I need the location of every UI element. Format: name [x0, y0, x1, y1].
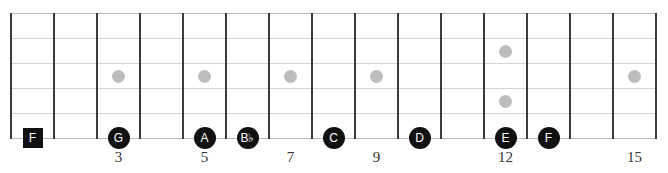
fretboard-diagram: FGAB♭CDEF35791215 — [0, 0, 668, 173]
string-line — [11, 13, 656, 14]
fret-line — [526, 13, 528, 139]
inlay-dot — [499, 45, 512, 58]
fret-line — [10, 13, 12, 139]
inlay-dot — [284, 70, 297, 83]
fret-line — [655, 13, 657, 139]
fret-line — [225, 13, 227, 139]
fret-line — [440, 13, 442, 139]
fret-line — [96, 13, 98, 139]
inlay-dot — [499, 95, 512, 108]
string-line — [11, 63, 656, 64]
fret-line — [354, 13, 356, 139]
fret-number: 9 — [362, 149, 392, 166]
fret-number: 5 — [190, 149, 220, 166]
fret-line — [53, 13, 55, 139]
fret-line — [483, 13, 485, 139]
fret-number: 12 — [491, 149, 521, 166]
fret-line — [569, 13, 571, 139]
fret-number: 3 — [104, 149, 134, 166]
note-marker: B♭ — [237, 127, 259, 149]
string-line — [11, 113, 656, 114]
string-line — [11, 88, 656, 89]
note-marker: E — [495, 127, 517, 149]
string-line — [11, 38, 656, 39]
note-marker: A — [194, 127, 216, 149]
inlay-dot — [628, 70, 641, 83]
fret-number: 15 — [620, 149, 650, 166]
inlay-dot — [112, 70, 125, 83]
note-marker: C — [323, 127, 345, 149]
note-marker: F — [538, 127, 560, 149]
fret-line — [182, 13, 184, 139]
inlay-dot — [198, 70, 211, 83]
fret-line — [311, 13, 313, 139]
fret-number: 7 — [276, 149, 306, 166]
fret-line — [139, 13, 141, 139]
inlay-dot — [370, 70, 383, 83]
fret-line — [268, 13, 270, 139]
note-marker: D — [409, 127, 431, 149]
note-marker: G — [108, 127, 130, 149]
fret-line — [612, 13, 614, 139]
fret-line — [397, 13, 399, 139]
root-note-marker: F — [23, 128, 43, 148]
